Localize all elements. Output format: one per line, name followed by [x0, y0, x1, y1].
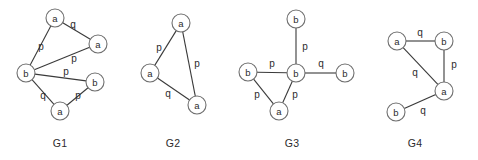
edge-label-g1-1: q: [70, 19, 76, 30]
edge-label-g3-2: p: [269, 58, 275, 69]
edge-label-g1-6: p: [75, 90, 81, 101]
node-layer: bbbba: [239, 10, 354, 120]
edge-layer: ppq: [155, 31, 200, 100]
graph-caption-g4: G4: [408, 137, 423, 149]
graph-caption-g1: G1: [53, 137, 68, 149]
edge-g1-4: [35, 74, 86, 81]
edge-layer: qpppqp: [30, 19, 90, 106]
edge-g4-3: [403, 48, 438, 85]
edge-label-g2-3: q: [165, 88, 171, 99]
node-label-g2-3: a: [194, 100, 200, 111]
node-label-g2-2: a: [147, 68, 153, 79]
edge-label-g3-3: q: [318, 58, 324, 69]
node-label-g4-2: b: [441, 36, 446, 47]
edge-label-g4-1: q: [417, 27, 423, 38]
edge-label-g4-2: p: [451, 59, 457, 70]
node-label-g3-2: b: [245, 67, 250, 78]
node-label-g3-5: a: [276, 106, 282, 117]
node-label-g4-3: a: [441, 86, 447, 97]
graph-diagram-svg: qpppqpaabbaG1ppqaaaG2ppqppbbbbaG3qpqqaba…: [0, 0, 478, 160]
edge-g2-3: [157, 78, 189, 100]
edge-label-g1-3: p: [71, 53, 77, 64]
edge-label-g4-3: q: [412, 67, 418, 78]
node-label-g4-1: a: [394, 36, 400, 47]
node-label-g1-4: b: [92, 77, 97, 88]
node-label-g1-1: a: [52, 13, 58, 24]
graph-g3: ppqppbbbbaG3: [239, 10, 354, 149]
graph-g4: qpqqababG4: [387, 27, 457, 150]
edge-label-g4-4: q: [420, 105, 426, 116]
node-label-g2-1: a: [178, 18, 184, 29]
edge-label-g1-2: p: [38, 41, 44, 52]
graph-g2: ppqaaaG2: [141, 14, 206, 149]
node-label-g1-5: a: [57, 106, 63, 117]
edge-g3-2: [257, 72, 287, 73]
edge-label-g1-5: q: [40, 90, 46, 101]
node-label-g1-2: a: [95, 39, 101, 50]
edge-label-g1-4: p: [63, 66, 69, 77]
edge-g1-1: [63, 23, 91, 40]
graph-caption-g3: G3: [285, 137, 300, 149]
figure-canvas: qpppqpaabbaG1ppqaaaG2ppqppbbbbaG3qpqqaba…: [0, 0, 478, 160]
node-label-g3-1: b: [293, 14, 298, 25]
graph-g1: qpppqpaabbaG1: [17, 9, 107, 149]
edge-label-g3-4: p: [254, 89, 260, 100]
edge-g3-5: [283, 81, 293, 103]
edge-label-g3-1: p: [302, 41, 308, 52]
node-label-g4-4: b: [393, 107, 398, 118]
node-label-g1-3: b: [23, 68, 28, 79]
edge-label-g2-1: p: [156, 42, 162, 53]
node-label-g3-4: b: [342, 68, 347, 79]
edge-label-g3-5: p: [292, 89, 298, 100]
graph-caption-g2: G2: [166, 137, 181, 149]
node-label-g3-3: b: [293, 68, 298, 79]
edge-label-g2-2: p: [194, 58, 200, 69]
